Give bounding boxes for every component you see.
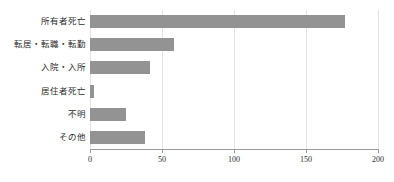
gridline-200 xyxy=(378,10,379,149)
category-label: その他 xyxy=(2,131,86,144)
x-tick-label: 150 xyxy=(300,155,312,165)
category-label: 居住者死亡 xyxy=(2,85,86,98)
category-label: 転居・転職・転勤 xyxy=(2,38,86,51)
bar xyxy=(90,131,145,144)
bar-row: 転居・転職・転勤 xyxy=(90,33,378,56)
bar xyxy=(90,38,174,51)
x-tick-label: 50 xyxy=(158,155,166,165)
bar-row: 不明 xyxy=(90,103,378,126)
bar xyxy=(90,15,345,28)
tick-mark-0 xyxy=(90,149,91,153)
category-label: 入院・入所 xyxy=(2,61,86,74)
tick-mark-200 xyxy=(378,149,379,153)
tick-mark-100 xyxy=(234,149,235,153)
bar xyxy=(90,61,150,74)
bar-row: 所有者死亡 xyxy=(90,10,378,33)
x-tick-label: 100 xyxy=(228,155,240,165)
bar-row: 入院・入所 xyxy=(90,56,378,79)
category-label: 不明 xyxy=(2,108,86,121)
bar xyxy=(90,108,126,121)
category-label: 所有者死亡 xyxy=(2,15,86,28)
plot-area: 所有者死亡転居・転職・転勤入院・入所居住者死亡不明その他 xyxy=(90,10,378,149)
x-tick-label: 0 xyxy=(88,155,92,165)
x-tick-label: 200 xyxy=(372,155,384,165)
bar-row: その他 xyxy=(90,126,378,149)
bar-chart: 所有者死亡転居・転職・転勤入院・入所居住者死亡不明その他 05010015020… xyxy=(0,0,394,182)
tick-mark-150 xyxy=(306,149,307,153)
tick-mark-50 xyxy=(162,149,163,153)
bar xyxy=(90,85,94,98)
bar-row: 居住者死亡 xyxy=(90,80,378,103)
